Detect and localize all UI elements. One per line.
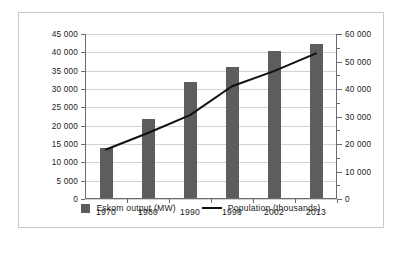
- right-axis-tick: [337, 34, 342, 35]
- left-axis-tick-label: 30 000: [52, 85, 78, 94]
- left-axis-tick-label: 15 000: [52, 140, 78, 149]
- bar-swatch-icon: [81, 204, 90, 213]
- population-line-series: [85, 34, 337, 199]
- right-axis-tick: [337, 158, 340, 159]
- right-axis-tick-label: 60 000: [345, 30, 371, 39]
- right-axis-tick: [337, 117, 342, 118]
- right-axis-tick: [337, 62, 342, 63]
- left-axis-tick-label: 20 000: [52, 121, 78, 130]
- right-axis-tick: [337, 130, 340, 131]
- left-axis-tick-label: 5 000: [57, 176, 79, 185]
- right-axis-tick-label: 40 000: [345, 85, 371, 94]
- right-axis-tick-label: 10 000: [345, 167, 371, 176]
- plot-area: 05 00010 00015 00020 00025 00030 00035 0…: [85, 34, 337, 199]
- right-axis-tick: [337, 103, 340, 104]
- line-swatch-icon: [202, 207, 222, 209]
- right-axis-tick: [337, 75, 340, 76]
- right-axis-tick: [337, 172, 342, 173]
- legend-label-eskom-output: Eskom output (MW): [96, 203, 175, 213]
- left-axis-tick-label: 35 000: [52, 66, 78, 75]
- right-axis-tick: [337, 144, 342, 145]
- left-axis-tick-label: 25 000: [52, 103, 78, 112]
- legend-label-population: Population (thousands): [228, 203, 321, 213]
- left-axis-tick: [81, 199, 85, 200]
- left-axis-line: [85, 34, 86, 199]
- legend-item-population[interactable]: Population (thousands): [202, 203, 321, 213]
- population-line-path: [106, 53, 316, 149]
- right-axis-tick-label: 50 000: [345, 57, 371, 66]
- left-axis-tick-label: 10 000: [52, 158, 78, 167]
- legend-item-eskom-output[interactable]: Eskom output (MW): [81, 203, 175, 213]
- right-axis-line: [336, 34, 337, 199]
- chart-frame: 05 00010 00015 00020 00025 00030 00035 0…: [18, 12, 384, 228]
- chart-legend: Eskom output (MW) Population (thousands): [19, 203, 383, 213]
- left-axis-tick-label: 45 000: [52, 30, 78, 39]
- right-axis-tick: [337, 89, 342, 90]
- right-axis-tick-label: 30 000: [345, 112, 371, 121]
- right-axis-tick: [337, 185, 340, 186]
- right-axis-tick: [337, 48, 340, 49]
- left-axis-tick-label: 40 000: [52, 48, 78, 57]
- right-axis-tick-label: 20 000: [345, 140, 371, 149]
